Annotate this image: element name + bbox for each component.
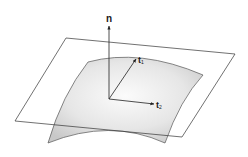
tangent2-label: t2 [156, 101, 162, 110]
tangent1-label-subscript: 1 [141, 59, 144, 65]
tangent1-label: t1 [138, 56, 144, 65]
tangent2-label-subscript: 2 [159, 104, 162, 110]
normal-label: n [106, 14, 112, 24]
tangent-plane-diagram [0, 0, 248, 157]
curved-surface [48, 57, 203, 143]
